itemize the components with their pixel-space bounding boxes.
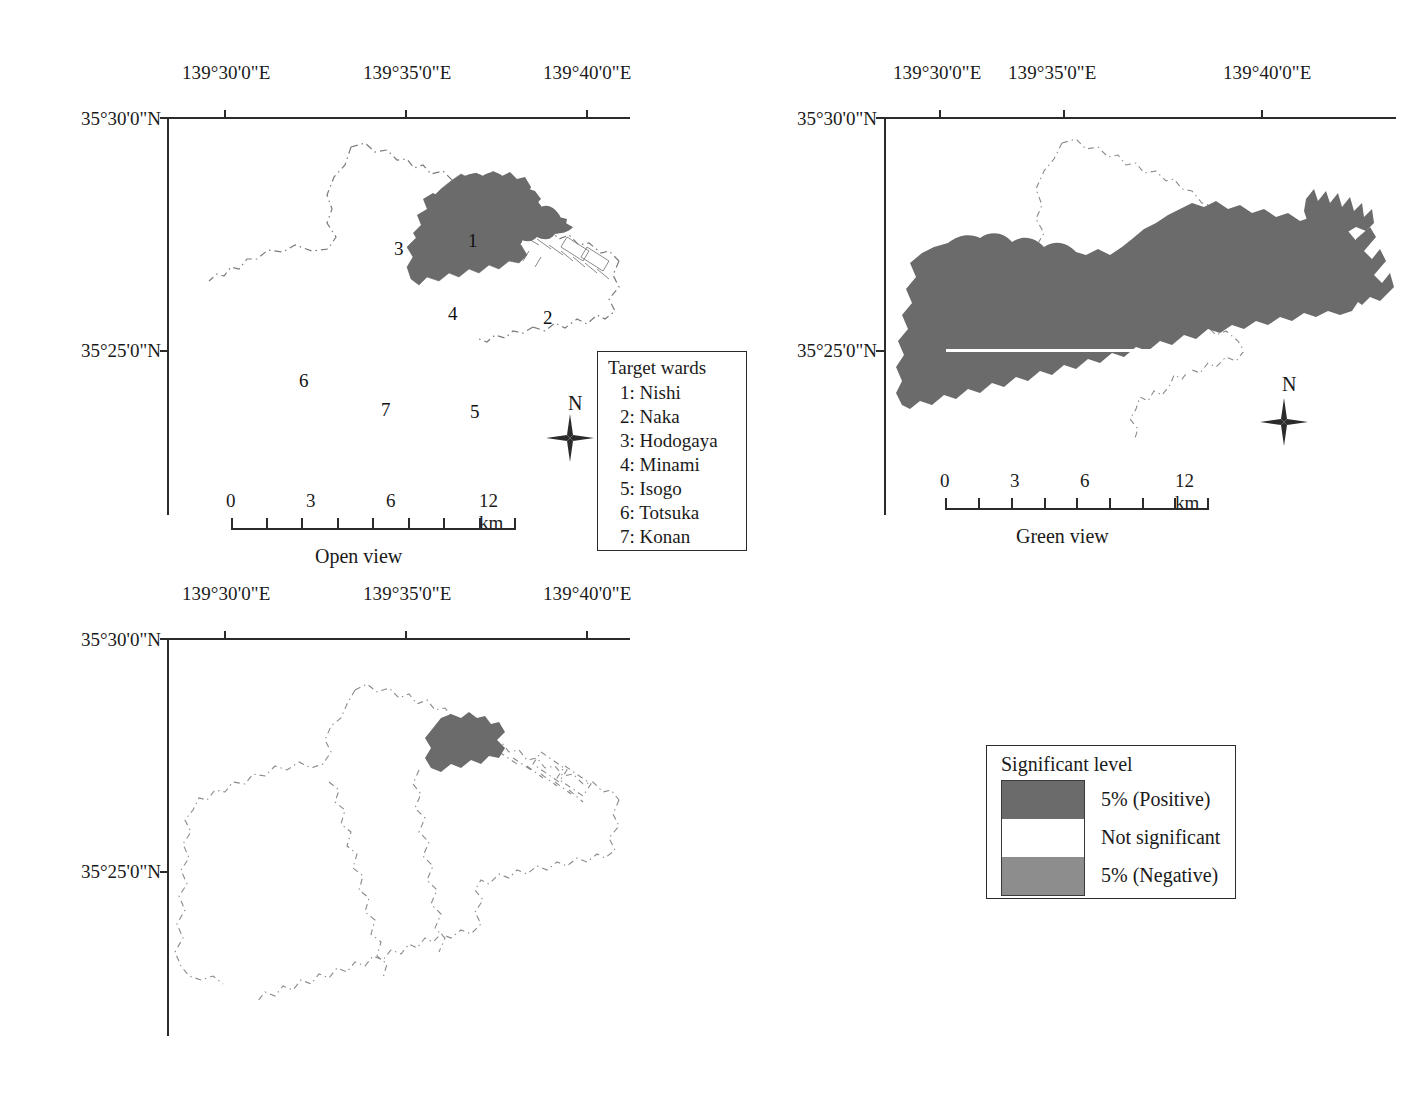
grid-line-vertical bbox=[405, 280, 408, 515]
axis-tick-x bbox=[1261, 110, 1263, 118]
scale-bar-tick bbox=[443, 518, 445, 530]
ward-number-label: 4 bbox=[448, 303, 458, 325]
legend-item: 3: Hodogaya bbox=[598, 429, 746, 453]
x-tick-label: 139°30'0"E bbox=[893, 62, 981, 84]
scale-number: 3 bbox=[1010, 470, 1020, 492]
legend-item: 5: Isogo bbox=[598, 477, 746, 501]
axis-tick-y bbox=[160, 117, 169, 119]
significance-legend-title: Significant level bbox=[987, 746, 1235, 780]
scale-bar-tick bbox=[479, 518, 481, 530]
y-tick-label: 35°25'0"N bbox=[56, 340, 161, 362]
scale-bar-tick bbox=[301, 518, 303, 530]
axis-tick-x bbox=[1063, 110, 1065, 118]
scale-number: 0 bbox=[226, 490, 236, 512]
legend-label-not-significant: Not significant bbox=[1101, 818, 1220, 856]
y-tick-label: 35°30'0"N bbox=[56, 629, 161, 651]
scale-bar-tick bbox=[408, 518, 410, 530]
ward-number-label: 5 bbox=[470, 401, 480, 423]
panel-ocean-view: 139°30'0"E 139°35'0"E 139°40'0"E 35°30'0… bbox=[0, 545, 700, 1113]
grid-line-horizontal bbox=[169, 350, 529, 353]
axis-tick-x bbox=[586, 110, 588, 118]
map-ocean-view bbox=[169, 640, 629, 1040]
scale-bar-tick bbox=[1207, 498, 1209, 510]
legend-title: Target wards bbox=[598, 352, 746, 381]
swatch-not-significant bbox=[1002, 819, 1084, 857]
scale-bar-tick bbox=[266, 518, 268, 530]
green-view-shapes bbox=[896, 189, 1394, 409]
axis-tick-y bbox=[160, 871, 169, 873]
scale-bar-tick bbox=[1044, 498, 1046, 510]
axis-tick-x bbox=[405, 631, 407, 639]
x-tick-label: 139°30'0"E bbox=[182, 62, 270, 84]
ward-number-label: 7 bbox=[381, 399, 391, 421]
legend-label-positive: 5% (Positive) bbox=[1101, 780, 1220, 818]
scale-bar-tick bbox=[1142, 498, 1144, 510]
city-outline-dashed bbox=[175, 684, 619, 1002]
y-tick-label: 35°25'0"N bbox=[56, 861, 161, 883]
x-tick-label: 139°35'0"E bbox=[1008, 62, 1096, 84]
panel-open-view: 139°30'0"E 139°35'0"E 139°40'0"E 35°30'0… bbox=[0, 0, 700, 570]
ward-number-label: 3 bbox=[394, 238, 404, 260]
target-wards-legend: Target wards 1: Nishi 2: Naka 3: Hodogay… bbox=[597, 351, 747, 551]
ward-number-label: 6 bbox=[299, 370, 309, 392]
panel-title-green-view: Green view bbox=[1016, 525, 1109, 548]
scale-bar-tick bbox=[1076, 498, 1078, 510]
x-tick-label: 139°30'0"E bbox=[182, 583, 270, 605]
axis-tick-y bbox=[160, 638, 169, 640]
y-tick-label: 35°25'0"N bbox=[772, 340, 877, 362]
axis-tick-x bbox=[224, 110, 226, 118]
axis-tick-y bbox=[876, 117, 885, 119]
axis-tick-x bbox=[405, 110, 407, 118]
x-tick-label: 139°40'0"E bbox=[543, 583, 631, 605]
legend-label-column: 5% (Positive) Not significant 5% (Negati… bbox=[1101, 780, 1220, 896]
scale-number: 6 bbox=[386, 490, 396, 512]
y-tick-label: 35°30'0"N bbox=[56, 108, 161, 130]
scale-bar-tick bbox=[945, 498, 947, 510]
legend-item: 1: Nishi bbox=[598, 381, 746, 405]
map-green-view bbox=[886, 119, 1396, 519]
scale-bar-tick bbox=[1109, 498, 1111, 510]
ocean-view-significant-ward bbox=[425, 712, 505, 772]
grid-line-horizontal bbox=[946, 349, 1396, 352]
x-tick-label: 139°40'0"E bbox=[1223, 62, 1311, 84]
x-tick-label: 139°35'0"E bbox=[363, 583, 451, 605]
scale-number: 6 bbox=[1080, 470, 1090, 492]
x-tick-label: 139°35'0"E bbox=[363, 62, 451, 84]
legend-item: 2: Naka bbox=[598, 405, 746, 429]
scale-bar-tick bbox=[372, 518, 374, 530]
scale-bar-tick bbox=[514, 518, 516, 530]
scale-bar-tick bbox=[1174, 498, 1176, 510]
scale-bar-tick bbox=[1011, 498, 1013, 510]
legend-item: 6: Totsuka bbox=[598, 501, 746, 525]
axis-tick-x bbox=[224, 631, 226, 639]
panel-green-view: 139°30'0"E 139°35'0"E 139°40'0"E 35°30'0… bbox=[760, 0, 1424, 570]
scale-bar-tick bbox=[231, 518, 233, 530]
significance-legend: Significant level 5% (Positive) Not sign… bbox=[986, 745, 1236, 899]
axis-tick-x bbox=[939, 110, 941, 118]
ward-number-label: 2 bbox=[543, 307, 553, 329]
compass-label-north: N bbox=[1282, 373, 1296, 396]
swatch-negative bbox=[1002, 857, 1084, 895]
compass-rose-icon bbox=[544, 412, 596, 464]
axis-tick-y bbox=[160, 350, 169, 352]
scale-number: 3 bbox=[306, 490, 316, 512]
grid-line-vertical bbox=[1385, 309, 1388, 439]
x-tick-label: 139°40'0"E bbox=[543, 62, 631, 84]
axis-tick-x bbox=[586, 631, 588, 639]
axis-tick-y bbox=[876, 350, 885, 352]
legend-swatch-column bbox=[1001, 780, 1085, 896]
legend-label-negative: 5% (Negative) bbox=[1101, 856, 1220, 894]
scale-bar-tick bbox=[978, 498, 980, 510]
swatch-positive bbox=[1002, 781, 1084, 819]
grid-line-vertical bbox=[1064, 429, 1067, 519]
compass-rose-icon bbox=[1258, 396, 1310, 448]
scale-number: 0 bbox=[940, 470, 950, 492]
scale-bar-tick bbox=[337, 518, 339, 530]
y-tick-label: 35°30'0"N bbox=[772, 108, 877, 130]
legend-item: 4: Minami bbox=[598, 453, 746, 477]
ward-number-label: 1 bbox=[468, 230, 478, 252]
